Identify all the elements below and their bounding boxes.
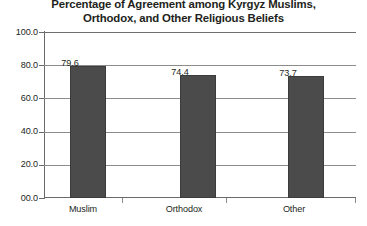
y-tick-label-40: 40.0 bbox=[2, 127, 38, 136]
y-tick-label-100: 100.0 bbox=[2, 28, 38, 37]
bar-chart: Percentage of Agreement among Kyrgyz Mus… bbox=[0, 0, 367, 226]
x-axis-label-muslim: Muslim bbox=[44, 205, 122, 214]
bar-value-other: 73.7 bbox=[270, 69, 306, 78]
x-tick-mark-2 bbox=[226, 198, 227, 203]
y-tick-label-0: 00.0 bbox=[2, 194, 38, 203]
bar-value-muslim: 79.6 bbox=[52, 59, 88, 68]
x-axis-label-other: Other bbox=[255, 205, 333, 214]
y-tick-label-80: 80.0 bbox=[2, 61, 38, 70]
bar-other bbox=[288, 76, 324, 198]
chart-title-line-1: Percentage of Agreement among Kyrgyz Mus… bbox=[0, 0, 367, 11]
bar-muslim bbox=[70, 66, 106, 198]
bar-orthodox bbox=[180, 75, 216, 199]
chart-title-line-2: Orthodox, and Other Religious Beliefs bbox=[0, 11, 367, 25]
y-tick-label-20: 20.0 bbox=[2, 160, 38, 169]
gridline-100 bbox=[44, 32, 357, 33]
x-axis-label-orthodox: Orthodox bbox=[145, 205, 223, 214]
chart-title: Percentage of Agreement among Kyrgyz Mus… bbox=[0, 0, 367, 26]
plot-area bbox=[44, 32, 357, 198]
y-axis-labels: 100.0 80.0 60.0 40.0 20.0 00.0 bbox=[0, 0, 38, 226]
bar-value-orthodox: 74.4 bbox=[162, 68, 198, 77]
y-tick-label-60: 60.0 bbox=[2, 94, 38, 103]
x-tick-mark-3 bbox=[355, 198, 356, 203]
x-tick-mark-1 bbox=[122, 198, 123, 203]
